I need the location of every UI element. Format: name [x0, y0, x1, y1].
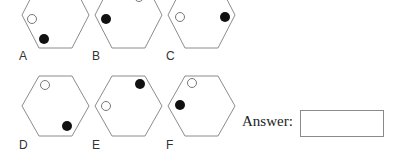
black-dot: [39, 34, 49, 44]
black-dot: [175, 100, 185, 110]
option-a-hexagon: [22, 0, 89, 48]
answer-label: Answer:: [242, 113, 293, 130]
option-a-label: A: [19, 49, 27, 63]
option-d-label: D: [19, 138, 28, 151]
white-dot: [28, 15, 37, 24]
answer-input[interactable]: [300, 110, 384, 137]
option-b-hexagon: [95, 0, 162, 48]
option-e-label: E: [92, 138, 100, 151]
option-e-hexagon: [95, 76, 162, 136]
black-dot: [62, 121, 72, 131]
white-dot: [41, 81, 50, 90]
white-dot: [176, 13, 185, 22]
option-d-hexagon: [22, 76, 89, 136]
option-b-label: B: [92, 49, 100, 63]
white-dot: [102, 102, 111, 111]
option-f-hexagon: [168, 76, 235, 136]
option-c-hexagon: [168, 0, 235, 48]
white-dot: [135, 0, 144, 2]
black-dot: [101, 14, 111, 24]
black-dot: [220, 12, 230, 22]
option-f-label: F: [166, 138, 173, 151]
black-dot: [135, 79, 145, 89]
option-c-label: C: [166, 49, 175, 63]
white-dot: [188, 79, 197, 88]
